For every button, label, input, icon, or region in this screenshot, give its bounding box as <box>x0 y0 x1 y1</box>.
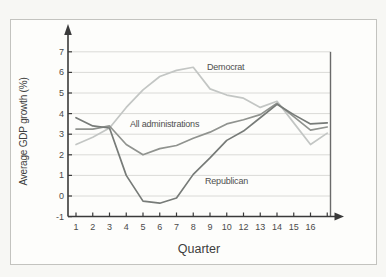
series-line-all-administrations <box>76 103 327 155</box>
y-tick-label-6: 6 <box>46 67 64 77</box>
y-tick-label-2: 2 <box>46 150 64 160</box>
x-tick-label-15: 15 <box>289 222 299 232</box>
x-tick-label-7: 7 <box>174 222 179 232</box>
x-axis-arrow-icon <box>335 213 345 221</box>
figure-canvas: Quarter Average GDP growth (%) 123456789… <box>0 0 386 277</box>
x-tick-label-13: 13 <box>255 222 265 232</box>
y-tick-label-3: 3 <box>46 129 64 139</box>
x-axis-title: Quarter <box>178 242 220 256</box>
y-axis-arrow-icon <box>64 24 72 35</box>
x-tick-label-6: 6 <box>157 222 162 232</box>
x-tick-label-2: 2 <box>90 222 95 232</box>
y-axis-title: Average GDP growth (%) <box>18 32 29 232</box>
series-line-democrat <box>76 67 327 144</box>
series-line-republican <box>76 104 327 203</box>
x-tick-label-12: 12 <box>238 222 248 232</box>
x-tick-label-14: 14 <box>272 222 282 232</box>
y-tick-label--1: -1 <box>46 212 64 222</box>
x-tick-label-10: 10 <box>222 222 232 232</box>
x-tick-label-8: 8 <box>191 222 196 232</box>
x-tick-label-4: 4 <box>124 222 129 232</box>
series-label-republican: Republican <box>205 176 248 186</box>
x-tick-label-9: 9 <box>207 222 212 232</box>
y-tick-label-5: 5 <box>46 88 64 98</box>
y-tick-label-4: 4 <box>46 109 64 119</box>
series-label-all-administrations: All administrations <box>130 119 199 129</box>
y-tick-label-7: 7 <box>46 47 64 57</box>
x-tick-label-16: 16 <box>305 222 315 232</box>
x-tick-label-3: 3 <box>107 222 112 232</box>
x-tick-label-5: 5 <box>140 222 145 232</box>
x-tick-label-1: 1 <box>73 222 78 232</box>
y-tick-label-0: 0 <box>46 191 64 201</box>
y-tick-label-1: 1 <box>46 170 64 180</box>
series-label-democrat: Democrat <box>207 62 244 72</box>
